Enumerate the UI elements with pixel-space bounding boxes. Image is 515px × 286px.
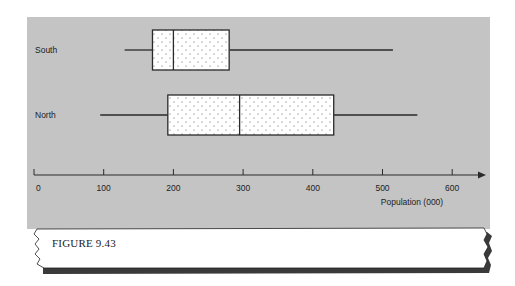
box-south: South <box>35 30 393 70</box>
x-tick-label: 500 <box>375 183 389 193</box>
figure-caption: FIGURE 9.43 <box>52 237 116 249</box>
caption-box <box>34 228 492 274</box>
axis-arrow-icon <box>478 172 486 179</box>
x-tick-label: 600 <box>445 183 459 193</box>
x-tick-label: 300 <box>236 183 250 193</box>
x-tick-label: 0 <box>36 183 41 193</box>
x-tick-label: 200 <box>166 183 180 193</box>
x-tick-label: 400 <box>306 183 320 193</box>
iqr-box <box>168 95 334 135</box>
x-tick-label: 100 <box>97 183 111 193</box>
x-axis-label: Population (000) <box>381 197 444 207</box>
iqr-box <box>152 30 229 70</box>
x-axis: 0100200300400500600 <box>34 169 486 193</box>
category-label: North <box>35 110 56 120</box>
category-label: South <box>35 45 57 55</box>
box-north: North <box>35 95 417 135</box>
